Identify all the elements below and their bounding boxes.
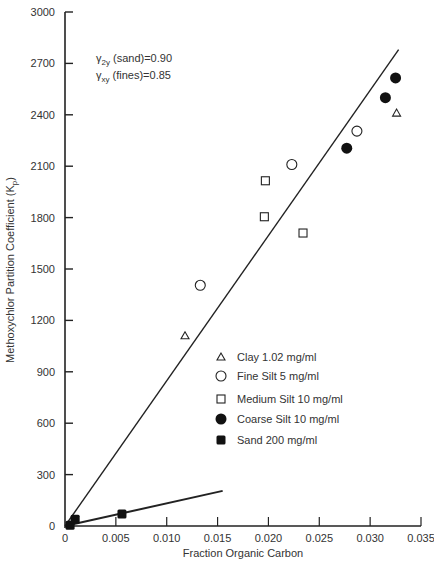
data-point — [260, 213, 268, 221]
data-point — [299, 229, 307, 237]
y-tick-label: 1200 — [31, 314, 55, 326]
y-tick-label: 600 — [37, 417, 55, 429]
data-point — [390, 72, 401, 83]
legend-label: Fine Silt 5 mg/ml — [237, 370, 319, 382]
y-axis-ticks: 03006009001200150018002100240027003000 — [31, 6, 73, 532]
fines-regression-line — [65, 50, 399, 526]
annotation-line: γxy (fines)=0.85 — [96, 69, 171, 84]
data-point — [393, 109, 401, 116]
correlation-annotation: γ2y (sand)=0.90γxy (fines)=0.85 — [96, 52, 172, 84]
legend-marker-icon — [216, 371, 226, 381]
legend-marker-icon — [217, 395, 225, 403]
legend-marker-icon — [217, 436, 226, 445]
y-tick-label: 0 — [49, 520, 55, 532]
x-tick-label: 0.005 — [102, 532, 130, 544]
legend-label: Clay 1.02 mg/ml — [237, 351, 316, 363]
data-point — [71, 515, 80, 524]
y-axis-title: Methoxychlor Partition Coefficient (Kp) — [4, 177, 19, 363]
x-tick-label: 0.020 — [255, 532, 283, 544]
sand-regression-line — [65, 491, 223, 526]
legend: Clay 1.02 mg/mlFine Silt 5 mg/mlMedium S… — [216, 351, 343, 446]
scatter-chart: 03006009001200150018002100240027003000 0… — [0, 0, 434, 566]
legend-marker-icon — [216, 414, 227, 425]
legend-label: Sand 200 mg/ml — [237, 434, 317, 446]
y-tick-label: 1500 — [31, 263, 55, 275]
data-point — [261, 177, 269, 185]
y-tick-label: 3000 — [31, 6, 55, 18]
y-tick-label: 2100 — [31, 160, 55, 172]
x-axis-ticks: 00.0050.0100.0150.0200.0250.0300.035 — [62, 517, 434, 544]
legend-label: Medium Silt 10 mg/ml — [237, 393, 343, 405]
y-tick-label: 300 — [37, 469, 55, 481]
data-points — [66, 72, 401, 529]
x-tick-label: 0.035 — [407, 532, 434, 544]
data-point — [380, 92, 391, 103]
legend-marker-icon — [217, 353, 225, 360]
y-tick-label: 900 — [37, 366, 55, 378]
y-tick-label: 1800 — [31, 212, 55, 224]
x-tick-label: 0.030 — [356, 532, 384, 544]
data-point — [352, 126, 362, 136]
data-point — [287, 159, 297, 169]
data-point — [117, 510, 126, 519]
x-tick-label: 0 — [62, 532, 68, 544]
x-tick-label: 0.010 — [153, 532, 181, 544]
data-point — [341, 143, 352, 154]
y-tick-label: 2400 — [31, 109, 55, 121]
data-point — [195, 280, 205, 290]
x-axis-title: Fraction Organic Carbon — [183, 547, 303, 559]
data-point — [181, 332, 189, 339]
regression-lines — [65, 50, 399, 526]
y-tick-label: 2700 — [31, 57, 55, 69]
x-tick-label: 0.015 — [204, 532, 232, 544]
legend-label: Coarse Silt 10 mg/ml — [237, 413, 339, 425]
x-tick-label: 0.025 — [306, 532, 334, 544]
annotation-line: γ2y (sand)=0.90 — [96, 52, 172, 67]
